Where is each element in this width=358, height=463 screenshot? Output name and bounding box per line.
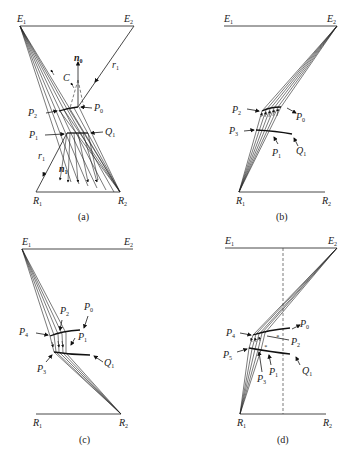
label-r2: R2 — [118, 417, 128, 429]
caption-a: (a) — [78, 211, 89, 223]
label-e1: E1 — [224, 235, 234, 247]
label-p0: P0 — [83, 301, 93, 313]
ray-fan-e1-r2 — [22, 249, 121, 414]
edge-ray-r1-top — [78, 26, 134, 107]
ray-fan-e2-r1 — [240, 248, 337, 414]
label-r1: R1 — [235, 195, 245, 207]
surface-p5-q1 — [249, 348, 290, 354]
label-p1: P1 — [268, 366, 278, 378]
label-p1: P1 — [28, 129, 38, 141]
panel-b: E1 E2 P2 P0 P3 P1 Q1 R1 R2 (b) — [223, 13, 337, 223]
label-r1-top: r1 — [112, 59, 119, 71]
caption-c: (c) — [79, 434, 90, 446]
optical-design-figure: E1 E2 n0 C r1 P2 P0 P1 Q1 r1 n1 R1 R2 (a… — [0, 0, 358, 463]
label-p3: P3 — [36, 363, 46, 375]
panel-d: * * E1 E2 P4 P0 P2 P5 P1 P3 Q1 R1 R2 (d) — [222, 235, 337, 446]
ray-fan-e1-r2 — [20, 26, 120, 192]
arrow-r1-top — [95, 78, 98, 82]
caption-d: (d) — [277, 434, 289, 446]
label-e2: E2 — [123, 13, 133, 25]
panel-a: E1 E2 n0 C r1 P2 P0 P1 Q1 r1 n1 R1 R2 (a… — [16, 13, 134, 223]
label-p3: P3 — [228, 125, 238, 137]
label-p1: P1 — [271, 147, 281, 159]
label-q1: Q1 — [105, 126, 115, 138]
label-r1: R1 — [32, 195, 42, 207]
label-e2: E2 — [327, 235, 337, 247]
label-r1: R1 — [236, 417, 246, 429]
label-p0: P0 — [93, 102, 103, 114]
label-n1: n1 — [59, 163, 68, 175]
label-p0: P0 — [295, 111, 305, 123]
label-r1: R1 — [32, 417, 42, 429]
label-e1: E1 — [223, 13, 233, 25]
label-e1: E1 — [21, 236, 31, 248]
label-p1: P1 — [77, 331, 87, 343]
label-q1: Q1 — [104, 357, 114, 369]
label-r1-bottom: r1 — [38, 150, 45, 162]
label-r2: R2 — [322, 417, 332, 429]
label-p2: P2 — [290, 336, 300, 348]
label-q1: Q1 — [296, 145, 306, 157]
label-n0: n0 — [74, 52, 83, 64]
label-p2: P2 — [27, 107, 37, 119]
label-p3: P3 — [256, 373, 266, 385]
label-r2: R2 — [321, 195, 331, 207]
caption-b: (b) — [276, 211, 288, 223]
label-p0: P0 — [299, 318, 309, 330]
label-r2: R2 — [117, 195, 127, 207]
label-e2: E2 — [123, 236, 133, 248]
label-p4: P4 — [225, 327, 235, 339]
label-e1: E1 — [16, 13, 26, 25]
surface-p3-q1 — [54, 352, 90, 355]
label-e2: E2 — [326, 13, 336, 25]
label-p2: P2 — [59, 305, 69, 317]
panel-c: E1 E2 P2 P0 P4 P1 P3 Q1 R1 R2 (c) — [18, 236, 133, 446]
label-p5: P5 — [222, 349, 232, 361]
label-c: C — [63, 72, 70, 83]
marker-star-2: * — [264, 344, 267, 350]
label-p4: P4 — [18, 326, 28, 338]
label-p2: P2 — [231, 104, 241, 116]
label-q1: Q1 — [302, 365, 312, 377]
marker-star-1: * — [276, 334, 279, 340]
